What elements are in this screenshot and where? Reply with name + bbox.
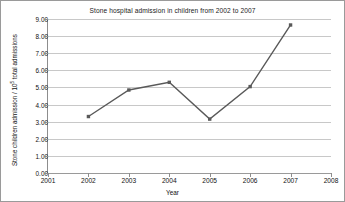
- y-tick-label: 9.00: [8, 16, 48, 23]
- data-point-marker: [87, 115, 90, 118]
- x-tick-label: 2007: [271, 177, 311, 184]
- y-axis-title-suffix: total admissions: [11, 34, 18, 81]
- x-tick-label: 2005: [190, 177, 230, 184]
- series-polyline: [88, 25, 290, 119]
- data-point-marker: [208, 117, 211, 120]
- x-tick-label: 2001: [28, 177, 68, 184]
- y-axis-line: [47, 19, 48, 174]
- x-tick-mark: [331, 173, 332, 177]
- gridline-y-0.00: [48, 173, 331, 174]
- data-series-line: [48, 19, 331, 173]
- data-point-marker: [127, 88, 130, 91]
- x-axis-title: Year: [1, 189, 344, 196]
- chart-title: Stone hospital admission in children fro…: [1, 7, 344, 14]
- data-point-marker: [248, 85, 251, 88]
- x-tick-label: 2002: [68, 177, 108, 184]
- y-axis-title: Stone children admission / 105 total adm…: [10, 25, 18, 175]
- plot-area: [48, 19, 331, 173]
- y-axis-title-exponent: 5: [10, 81, 15, 84]
- x-tick-label: 2006: [230, 177, 270, 184]
- x-tick-label: 2008: [311, 177, 345, 184]
- x-tick-label: 2004: [149, 177, 189, 184]
- x-tick-label: 2003: [109, 177, 149, 184]
- y-axis-title-prefix: Stone children admission / 10: [11, 83, 18, 166]
- data-point-marker: [168, 81, 171, 84]
- data-point-marker: [289, 23, 292, 26]
- chart-container: Stone hospital admission in children fro…: [0, 0, 345, 202]
